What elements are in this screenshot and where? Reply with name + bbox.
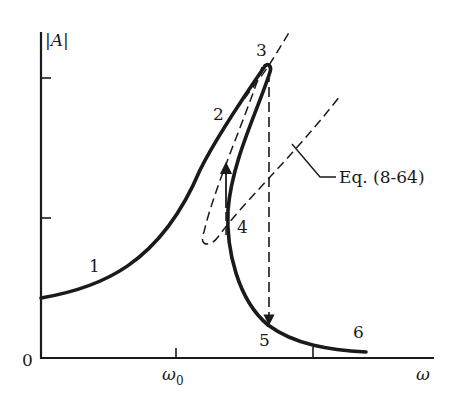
origin-label: 0 — [22, 350, 33, 370]
omega0-symbol: ω — [162, 364, 176, 384]
equation-leader-line — [292, 144, 336, 177]
point-label-5: 5 — [259, 330, 270, 350]
y-axis-label: |A| — [45, 30, 69, 50]
axes — [40, 32, 434, 359]
point-label-4: 4 — [237, 217, 248, 237]
resonance-diagram: |A| 0 ω ω0 Eq. (8-64) 1 2 3 4 5 6 — [0, 0, 461, 402]
point-label-2: 2 — [213, 104, 224, 124]
point-label-3: 3 — [256, 40, 267, 60]
equation-label: Eq. (8-64) — [339, 167, 425, 187]
point-label-6: 6 — [353, 322, 364, 342]
backbone-dashed-line — [200, 31, 290, 170]
equation-dashed-curve — [202, 67, 340, 244]
omega0-label: ω0 — [162, 364, 184, 388]
x-axis-label: ω — [416, 364, 430, 384]
omega0-subscript: 0 — [176, 374, 184, 388]
response-curve-lower — [268, 325, 366, 352]
point-label-1: 1 — [89, 256, 100, 276]
response-curve-peak-branch — [228, 65, 271, 325]
